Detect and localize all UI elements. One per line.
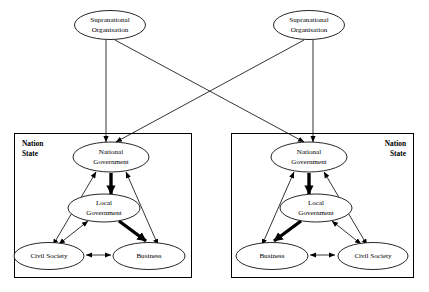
supranational-left-label-line2: Organisation: [92, 26, 129, 34]
supranational-right-label-line2: Organisation: [291, 26, 328, 34]
diagram-canvas: Supranational Organisation Supranational…: [0, 0, 429, 292]
local-government-left-label-line1: Local: [96, 199, 112, 207]
edge-local-right-to-business-right: [274, 221, 301, 241]
civil-society-left[interactable]: Civil Society: [14, 243, 84, 270]
nation-state-right-label-line2: State: [390, 149, 407, 158]
civil-society-left-label: Civil Society: [30, 252, 68, 260]
local-government-right-label-line2: Government: [298, 209, 333, 217]
business-right-label: Business: [259, 252, 284, 260]
supranational-organisation-right[interactable]: Supranational Organisation: [274, 11, 345, 40]
supranational-left-ellipse: [75, 11, 146, 40]
national-government-right[interactable]: National Government: [271, 142, 347, 172]
national-government-right-ellipse: [271, 142, 347, 172]
nation-state-left-label-line1: Nation: [22, 139, 43, 148]
local-government-left-label-line2: Government: [86, 209, 121, 217]
edge-local-left-to-civil-society-left: [59, 221, 88, 244]
supranational-right-ellipse: [274, 11, 345, 40]
national-government-left-label-line1: National: [99, 148, 123, 156]
national-government-right-label-line1: National: [297, 148, 321, 156]
civil-society-right[interactable]: Civil Society: [338, 243, 408, 270]
supranational-left-label-line1: Supranational: [90, 16, 129, 24]
nation-state-left-label-line2: State: [22, 149, 39, 158]
business-left-label: Business: [136, 252, 161, 260]
supranational-right-label-line1: Supranational: [289, 16, 328, 24]
civil-society-right-label: Civil Society: [354, 252, 392, 260]
national-government-right-label-line2: Government: [291, 158, 326, 166]
governance-diagram: Supranational Organisation Supranational…: [0, 0, 429, 292]
nation-state-right-label: Nation State: [385, 139, 407, 158]
national-government-left-label-line2: Government: [93, 158, 128, 166]
nation-state-left-label: Nation State: [22, 139, 43, 158]
local-government-right-label-line1: Local: [308, 199, 324, 207]
business-left[interactable]: Business: [113, 243, 185, 270]
edge-local-left-to-business-left: [119, 221, 146, 241]
local-government-left[interactable]: Local Government: [68, 194, 140, 222]
supranational-organisation-left[interactable]: Supranational Organisation: [75, 11, 146, 40]
local-government-right[interactable]: Local Government: [280, 194, 352, 222]
nation-state-right-label-line1: Nation: [385, 139, 406, 148]
business-right[interactable]: Business: [236, 243, 308, 270]
edge-local-right-to-civil-society-right: [332, 221, 361, 244]
national-government-left-ellipse: [73, 142, 149, 172]
national-government-left[interactable]: National Government: [73, 142, 149, 172]
